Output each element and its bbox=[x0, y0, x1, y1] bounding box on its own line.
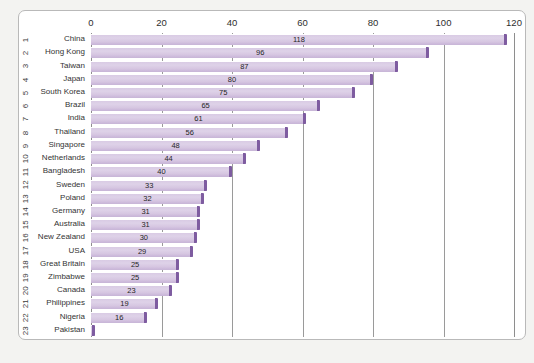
bar-value-label: 75 bbox=[219, 88, 227, 98]
x-axis-tick-60: 60 bbox=[297, 18, 308, 28]
category-label-australia: Australia bbox=[54, 220, 85, 228]
bar-value-label: 56 bbox=[186, 128, 194, 138]
bar-value-label: 48 bbox=[171, 141, 179, 151]
bar-end-cap bbox=[204, 180, 207, 191]
category-label-brazil: Brazil bbox=[65, 101, 85, 109]
bar-value-label: 29 bbox=[138, 247, 146, 257]
bar-value-label: 44 bbox=[164, 154, 172, 164]
rank-label-4: 4 bbox=[22, 73, 36, 86]
category-label-great-britain: Great Britain bbox=[40, 260, 85, 268]
bar-row: 118 bbox=[91, 34, 514, 45]
bar-end-cap bbox=[92, 325, 95, 336]
rank-label-22: 22 bbox=[22, 311, 36, 324]
x-axis-tick-0: 0 bbox=[88, 18, 93, 28]
rank-label-3: 3 bbox=[22, 59, 36, 72]
rank-label-16: 16 bbox=[22, 231, 36, 244]
category-label-bangladesh: Bangladesh bbox=[43, 167, 85, 175]
category-label-netherlands: Netherlands bbox=[42, 154, 85, 162]
bar-row: 32 bbox=[91, 193, 514, 204]
bar-row: 40 bbox=[91, 166, 514, 177]
rank-label-12: 12 bbox=[22, 178, 36, 191]
bar-end-cap bbox=[257, 140, 260, 151]
rank-label-10: 10 bbox=[22, 152, 36, 165]
category-label-south-korea: South Korea bbox=[41, 88, 85, 96]
bar-value-label: 16 bbox=[115, 313, 123, 323]
bar-value-label: 33 bbox=[145, 181, 153, 191]
bar-value-label: 40 bbox=[157, 167, 165, 177]
bar-chart: 1234567891011121314151617181920212223 Ch… bbox=[0, 0, 534, 363]
bar-value-label: 96 bbox=[256, 48, 264, 58]
bar-end-cap bbox=[197, 219, 200, 230]
bar-end-cap bbox=[155, 298, 158, 309]
bar-end-cap bbox=[504, 34, 507, 45]
category-label-germany: Germany bbox=[52, 207, 85, 215]
rank-label-20: 20 bbox=[22, 284, 36, 297]
rank-label-7: 7 bbox=[22, 112, 36, 125]
plot-area: 0204060801001201189687807565615648444033… bbox=[91, 33, 514, 337]
gridline-120 bbox=[514, 33, 515, 337]
x-axis-tick-80: 80 bbox=[368, 18, 379, 28]
bar-value-label: 23 bbox=[127, 286, 135, 296]
bar-row: 87 bbox=[91, 61, 514, 72]
category-label-pakistan: Pakistan bbox=[54, 326, 85, 334]
category-label-philippines: Philippines bbox=[46, 299, 85, 307]
bar-row: 65 bbox=[91, 100, 514, 111]
category-label-india: India bbox=[68, 114, 85, 122]
rank-label-19: 19 bbox=[22, 271, 36, 284]
bar-row bbox=[91, 325, 514, 336]
bar-end-cap bbox=[243, 153, 246, 164]
bar-value-label: 25 bbox=[131, 260, 139, 270]
bar-row: 31 bbox=[91, 219, 514, 230]
bar-row: 23 bbox=[91, 285, 514, 296]
bar-end-cap bbox=[229, 166, 232, 177]
bar-row: 19 bbox=[91, 298, 514, 309]
bar-value-label: 80 bbox=[228, 75, 236, 85]
category-label-poland: Poland bbox=[60, 194, 85, 202]
bar-value-label: 87 bbox=[240, 62, 248, 72]
x-axis-tick-40: 40 bbox=[227, 18, 238, 28]
bar-row: 33 bbox=[91, 180, 514, 191]
rank-label-2: 2 bbox=[22, 46, 36, 59]
rank-label-15: 15 bbox=[22, 218, 36, 231]
rank-label-14: 14 bbox=[22, 205, 36, 218]
bar-row: 44 bbox=[91, 153, 514, 164]
bar-row: 75 bbox=[91, 87, 514, 98]
category-label-zimbabwe: Zimbabwe bbox=[48, 273, 85, 281]
bar-end-cap bbox=[426, 47, 429, 58]
category-label-usa: USA bbox=[69, 247, 85, 255]
bar-row: 16 bbox=[91, 312, 514, 323]
category-label-new-zealand: New Zealand bbox=[38, 233, 85, 241]
chart-screenshot: 1234567891011121314151617181920212223 Ch… bbox=[0, 0, 534, 363]
rank-label-5: 5 bbox=[22, 86, 36, 99]
category-label-sweden: Sweden bbox=[56, 181, 85, 189]
bar-row: 30 bbox=[91, 232, 514, 243]
bar-end-cap bbox=[303, 113, 306, 124]
category-label-taiwan: Taiwan bbox=[60, 62, 85, 70]
rank-label-23: 23 bbox=[22, 324, 36, 337]
rank-label-6: 6 bbox=[22, 99, 36, 112]
category-label-japan: Japan bbox=[63, 75, 85, 83]
rank-label-11: 11 bbox=[22, 165, 36, 178]
bar-end-cap bbox=[176, 272, 179, 283]
rank-label-8: 8 bbox=[22, 126, 36, 139]
category-label-thailand: Thailand bbox=[54, 128, 85, 136]
bar-row: 61 bbox=[91, 113, 514, 124]
rank-label-17: 17 bbox=[22, 244, 36, 257]
rank-label-1: 1 bbox=[22, 33, 36, 46]
bar-value-label: 31 bbox=[141, 220, 149, 230]
x-axis-tick-100: 100 bbox=[436, 18, 452, 28]
bar-value-label: 19 bbox=[120, 299, 128, 309]
category-axis: ChinaHong KongTaiwanJapanSouth KoreaBraz… bbox=[36, 33, 88, 337]
bar-end-cap bbox=[176, 259, 179, 270]
bar-end-cap bbox=[169, 285, 172, 296]
bar-end-cap bbox=[190, 246, 193, 257]
bar-end-cap bbox=[317, 100, 320, 111]
bar-row: 56 bbox=[91, 127, 514, 138]
bar-value-label: 25 bbox=[131, 273, 139, 283]
bar-end-cap bbox=[197, 206, 200, 217]
category-label-nigeria: Nigeria bbox=[60, 313, 85, 321]
bar-row: 80 bbox=[91, 74, 514, 85]
x-axis-tick-120: 120 bbox=[506, 18, 522, 28]
bar-end-cap bbox=[201, 193, 204, 204]
bar-end-cap bbox=[285, 127, 288, 138]
